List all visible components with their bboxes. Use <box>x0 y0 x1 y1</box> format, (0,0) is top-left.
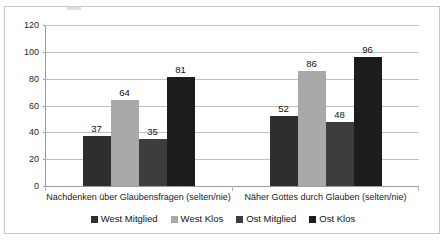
bars-layer: 3764358152864896 <box>45 25 419 186</box>
bar-group: 52864896 <box>270 25 382 186</box>
legend-swatch-icon <box>171 216 178 223</box>
bar <box>83 136 111 186</box>
bar <box>326 122 354 186</box>
bar-value-label: 86 <box>292 59 332 69</box>
bar <box>139 139 167 186</box>
legend-label: West Mitglied <box>101 214 158 224</box>
legend-label: Ost Mitglied <box>246 214 296 224</box>
legend-label: Ost Klos <box>319 214 355 224</box>
y-axis-tick-label: 60 <box>5 102 39 111</box>
legend-swatch-icon <box>236 216 243 223</box>
page-scan-artifact <box>67 7 81 10</box>
x-axis-tick-mark <box>45 186 46 191</box>
bar-group: 37643581 <box>83 25 195 186</box>
x-axis-tick-mark <box>418 186 419 191</box>
plot-area: 3764358152864896 <box>45 25 419 186</box>
chart-legend: West MitgliedWest KlosOst MitgliedOst Kl… <box>5 211 441 227</box>
y-axis-tick-label: 20 <box>5 155 39 164</box>
y-axis-tick-label: 40 <box>5 128 39 137</box>
legend-label: West Klos <box>181 214 224 224</box>
bar <box>354 57 382 186</box>
x-axis-category-label: Näher Gottes durch Glauben (selten/nie) <box>232 191 419 203</box>
x-axis-category-label: Nachdenken über Glaubensfragen (selten/n… <box>45 191 232 203</box>
bar <box>298 71 326 186</box>
y-axis-tick-label: 100 <box>5 48 39 57</box>
x-axis-category-labels: Nachdenken über Glaubensfragen (selten/n… <box>45 191 419 207</box>
legend-item[interactable]: West Mitglied <box>91 214 158 224</box>
legend-swatch-icon <box>309 216 316 223</box>
legend-item[interactable]: West Klos <box>171 214 224 224</box>
y-axis-tick-label: 80 <box>5 75 39 84</box>
y-axis-tick-label: 0 <box>5 182 39 191</box>
bar <box>270 116 298 186</box>
bar <box>111 100 139 186</box>
bar-value-label: 81 <box>161 65 201 75</box>
legend-swatch-icon <box>91 216 98 223</box>
y-axis-tick-labels: 020406080100120 <box>5 17 39 194</box>
legend-item[interactable]: Ost Klos <box>309 214 355 224</box>
chart-container: 020406080100120 3764358152864896 Nachden… <box>4 6 440 234</box>
x-axis-tick-mark <box>232 186 233 191</box>
bar <box>167 77 195 186</box>
legend-item[interactable]: Ost Mitglied <box>236 214 296 224</box>
y-axis-tick-label: 120 <box>5 21 39 30</box>
bar-value-label: 96 <box>348 45 388 55</box>
bar-value-label: 64 <box>105 88 145 98</box>
